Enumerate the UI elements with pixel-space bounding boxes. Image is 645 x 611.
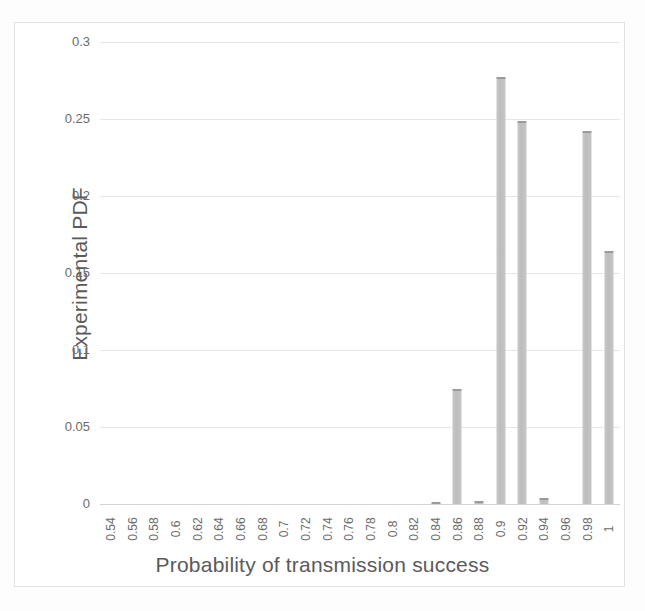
bar-slot: [577, 42, 599, 504]
bar: [518, 121, 527, 504]
bar: [583, 131, 592, 504]
bar-slot: [208, 42, 230, 504]
bar-slot: [252, 42, 274, 504]
x-axis-tick-label: 0.94: [537, 509, 551, 549]
bar-slot: [598, 42, 620, 504]
x-axis-tick-label: 0.64: [212, 509, 226, 549]
x-axis-tick-label: 0.84: [429, 509, 443, 549]
bar-slot: [273, 42, 295, 504]
chart-figure: Experimental PDF 00.050.10.150.20.250.3 …: [0, 0, 645, 611]
bar-series: [100, 42, 620, 504]
y-axis-tick-label: 0: [34, 496, 90, 511]
bar: [605, 251, 614, 504]
bar-slot: [122, 42, 144, 504]
x-axis-tick-label: 0.7: [277, 509, 291, 549]
bar-slot: [165, 42, 187, 504]
x-axis-tick-label: 0.68: [256, 509, 270, 549]
gridline: [100, 504, 620, 505]
bar-slot: [533, 42, 555, 504]
x-axis-tick-label: 0.56: [126, 509, 140, 549]
plot-area: [100, 42, 620, 504]
x-axis-tick-label: 0.58: [147, 509, 161, 549]
bar-slot: [338, 42, 360, 504]
x-axis-tick-label: 0.76: [342, 509, 356, 549]
bar: [453, 389, 462, 505]
bar: [540, 498, 549, 504]
bar-slot: [360, 42, 382, 504]
bar-slot: [382, 42, 404, 504]
bar-slot: [295, 42, 317, 504]
x-axis-tick-label: 0.74: [321, 509, 335, 549]
x-axis-tick-label: 0.62: [191, 509, 205, 549]
x-axis-tick-label: 0.6: [169, 509, 183, 549]
bar: [431, 502, 440, 504]
bar-slot: [490, 42, 512, 504]
x-axis-tick-label: 0.54: [104, 509, 118, 549]
x-axis-tick-label: 0.88: [472, 509, 486, 549]
bar-slot: [425, 42, 447, 504]
bar-slot: [403, 42, 425, 504]
x-axis-title: Probability of transmission success: [0, 553, 645, 577]
x-axis-tick-label: 0.82: [407, 509, 421, 549]
y-axis-tick-label: 0.15: [34, 265, 90, 280]
bar-slot: [317, 42, 339, 504]
x-axis-tick-label: 1: [602, 509, 616, 549]
x-axis-tick-labels: 0.540.560.580.60.620.640.660.680.70.720.…: [100, 506, 620, 552]
x-axis-tick-label: 0.96: [559, 509, 573, 549]
bar-slot: [512, 42, 534, 504]
x-axis-tick-label: 0.92: [516, 509, 530, 549]
x-axis-tick-label: 0.72: [299, 509, 313, 549]
bar: [475, 501, 484, 504]
y-axis-tick-label: 0.05: [34, 419, 90, 434]
x-axis-tick-label: 0.8: [386, 509, 400, 549]
bar-slot: [187, 42, 209, 504]
bar-slot: [555, 42, 577, 504]
x-axis-tick-label: 0.66: [234, 509, 248, 549]
bar: [496, 77, 505, 504]
y-axis-tick-label: 0.1: [34, 342, 90, 357]
x-axis-tick-label: 0.86: [451, 509, 465, 549]
x-axis-tick-label: 0.9: [494, 509, 508, 549]
bar-slot: [143, 42, 165, 504]
bar-slot: [230, 42, 252, 504]
x-axis-tick-label: 0.78: [364, 509, 378, 549]
bar-slot: [447, 42, 469, 504]
y-axis-tick-label: 0.2: [34, 188, 90, 203]
bar-slot: [468, 42, 490, 504]
y-axis-tick-label: 0.25: [34, 111, 90, 126]
y-axis-tick-label: 0.3: [34, 34, 90, 49]
x-axis-tick-label: 0.98: [581, 509, 595, 549]
bar-slot: [100, 42, 122, 504]
